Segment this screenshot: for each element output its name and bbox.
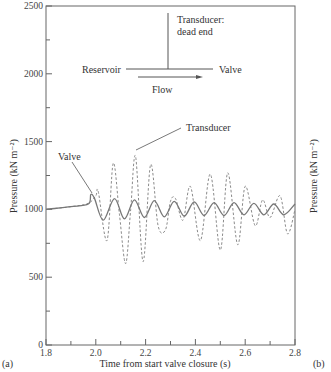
pipe-schematic: Reservoir Valve Transducer: dead end Flo… <box>82 13 242 95</box>
x-tick-label: 2.4 <box>189 348 201 358</box>
schematic-valve-label: Valve <box>219 64 242 75</box>
x-tick-label: 1.8 <box>40 348 52 358</box>
transducer-series-label: Transducer <box>186 122 231 133</box>
y-tick-label: 2000 <box>24 69 43 79</box>
reservoir-label: Reservoir <box>82 64 122 75</box>
valve-series-label: Valve <box>58 151 81 162</box>
panel-a-label: (a) <box>2 358 13 370</box>
x-axis-title: Time from start valve closure (s) <box>100 358 231 370</box>
valve-leader-line <box>72 162 92 193</box>
valve-series-line <box>46 155 295 263</box>
x-tick-label: 2.6 <box>239 348 251 358</box>
y-tick-label: 1500 <box>24 137 43 147</box>
panel-b-label: (b) <box>313 358 325 370</box>
y-axis: 05001000150020002500 <box>24 1 52 350</box>
transducer-dead-end-label-1: Transducer: <box>177 14 224 25</box>
transducer-series-line <box>46 194 295 220</box>
flow-label: Flow <box>152 84 173 95</box>
x-tick-label: 2.2 <box>140 348 152 358</box>
y-axis-title: Pressure (kN m⁻²) <box>8 139 20 213</box>
y-tick-label: 1000 <box>24 204 43 214</box>
plot-frame <box>46 6 295 345</box>
y-tick-label: 500 <box>29 272 44 282</box>
pressure-chart: 05001000150020002500 1.82.02.22.42.62.8 … <box>0 0 331 372</box>
x-axis: 1.82.02.22.42.62.8 <box>40 339 301 358</box>
x-tick-label: 2.8 <box>289 348 301 358</box>
x-tick-label: 2.0 <box>90 348 102 358</box>
y-tick-label: 2500 <box>24 1 43 11</box>
flow-arrowhead-icon <box>196 75 203 79</box>
transducer-leader-line <box>136 128 181 150</box>
transducer-dead-end-label-2: dead end <box>177 26 213 37</box>
panel-b-y-axis-title: Pressure (kN m⁻²) <box>308 139 320 213</box>
